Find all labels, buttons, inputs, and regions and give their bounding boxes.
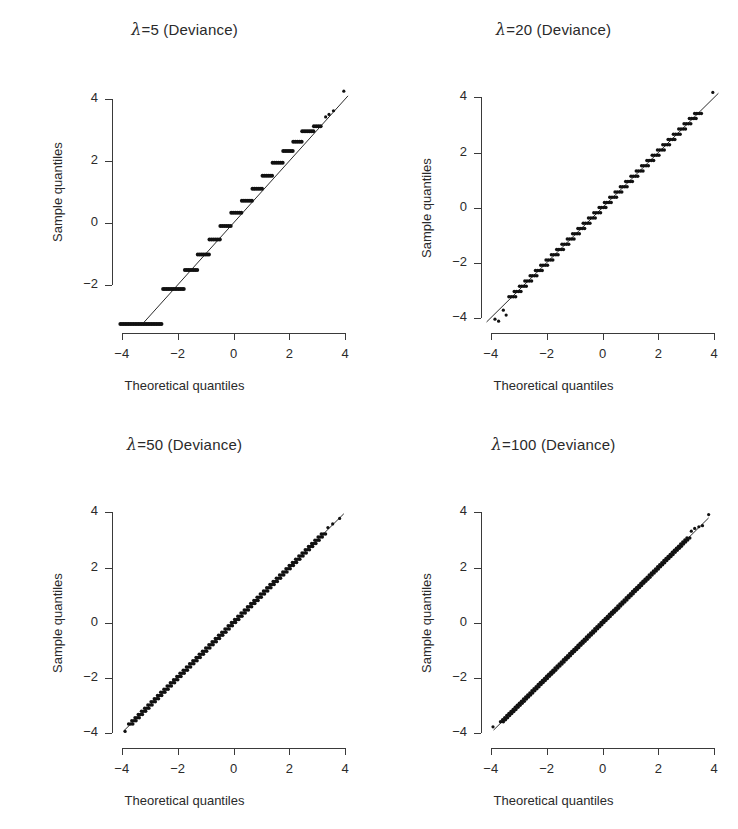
data-point — [693, 527, 696, 530]
panel-lambda-5: λ=5 (Deviance) −4−2024Theoretical quanti… — [0, 0, 369, 414]
data-point — [276, 580, 280, 584]
data-point — [314, 542, 318, 546]
data-point — [170, 684, 174, 688]
data-point — [338, 517, 341, 520]
data-point — [327, 113, 330, 116]
panel-lambda-20: λ=20 (Deviance) −4−2024Theoretical quant… — [369, 0, 738, 414]
plot-area: −4−2024Theoretical quantiles−2024Sample … — [0, 0, 369, 414]
data-point — [173, 681, 177, 685]
data-point — [227, 627, 231, 631]
data-point — [578, 232, 582, 236]
data-point — [311, 129, 315, 133]
data-point — [652, 159, 656, 163]
data-point — [688, 536, 692, 540]
data-point — [301, 554, 305, 558]
qq-data-layer — [0, 415, 369, 829]
data-point — [243, 611, 247, 615]
data-point — [141, 713, 145, 717]
data-point — [657, 154, 661, 158]
data-point — [599, 211, 603, 215]
data-point — [324, 532, 328, 536]
data-point — [166, 687, 170, 691]
data-point — [694, 117, 698, 121]
data-point — [202, 653, 206, 657]
data-point — [583, 227, 587, 231]
data-point — [199, 656, 203, 660]
qq-data-layer — [0, 0, 369, 414]
data-point — [256, 599, 260, 603]
data-point — [179, 675, 183, 679]
data-point — [668, 143, 672, 147]
data-point — [163, 691, 167, 695]
data-point — [266, 589, 270, 593]
data-point — [221, 634, 225, 638]
qq-data-layer — [369, 0, 738, 414]
data-point — [620, 190, 624, 194]
data-point — [556, 253, 560, 256]
data-point — [701, 524, 704, 527]
data-point — [326, 526, 329, 529]
data-point — [331, 522, 334, 525]
data-point — [530, 279, 534, 283]
data-point — [234, 621, 238, 625]
data-point — [684, 127, 688, 131]
data-point — [195, 268, 199, 272]
data-point — [176, 678, 180, 682]
data-point — [567, 243, 571, 247]
data-point — [551, 258, 555, 262]
data-point — [229, 224, 233, 228]
data-points — [491, 513, 710, 728]
data-point — [215, 640, 219, 644]
data-point — [237, 618, 241, 622]
data-point — [239, 211, 243, 215]
data-point — [250, 605, 254, 609]
data-point — [192, 662, 196, 666]
data-point — [311, 545, 315, 549]
data-point — [707, 513, 710, 516]
data-points — [493, 91, 714, 323]
data-point — [285, 570, 289, 574]
plot-area: −4−2024Theoretical quantiles−4−2024Sampl… — [369, 0, 738, 414]
data-point — [502, 309, 505, 312]
data-point — [562, 248, 566, 252]
data-point — [540, 269, 544, 273]
data-point — [253, 602, 257, 606]
data-point — [207, 253, 211, 257]
data-point — [324, 115, 327, 118]
data-point — [224, 630, 228, 634]
data-point — [282, 573, 286, 577]
data-point — [689, 122, 693, 126]
data-point — [342, 90, 345, 93]
data-point — [281, 161, 285, 165]
data-point — [625, 185, 629, 189]
data-point — [636, 174, 640, 178]
data-point — [535, 274, 539, 278]
data-point — [182, 287, 186, 291]
data-point — [160, 694, 164, 698]
data-point — [519, 290, 523, 294]
data-point — [615, 195, 619, 199]
panel-lambda-50: λ=50 (Deviance) −4−2024Theoretical quant… — [0, 415, 369, 829]
data-points — [124, 517, 342, 733]
data-point — [150, 703, 154, 707]
data-point — [332, 109, 335, 112]
data-point — [647, 164, 651, 168]
data-point — [154, 700, 158, 704]
data-point — [641, 169, 645, 173]
data-point — [218, 637, 222, 641]
data-point — [700, 112, 704, 116]
data-point — [157, 697, 161, 701]
data-point — [260, 596, 264, 600]
data-point — [147, 706, 151, 710]
data-point — [195, 659, 199, 663]
data-point — [305, 551, 309, 555]
data-point — [131, 722, 135, 726]
data-point — [593, 216, 597, 220]
data-point — [137, 716, 141, 720]
plot-area: −4−2024Theoretical quantiles−4−2024Sampl… — [0, 415, 369, 829]
data-point — [189, 665, 193, 669]
data-point — [678, 133, 682, 137]
data-point — [269, 586, 273, 590]
data-point — [711, 91, 714, 94]
data-point — [291, 149, 295, 153]
